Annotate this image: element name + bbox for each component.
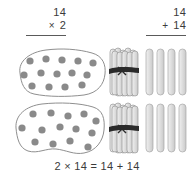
counter-group-2-shape: [8, 101, 108, 159]
counter-dot: [80, 110, 87, 117]
addition-rule-line: [146, 33, 186, 36]
counter-group-1: [8, 47, 108, 99]
multiplication-multiplicand: 14: [53, 6, 66, 19]
stick-group-1-shape: [108, 47, 194, 99]
loose-sticks: [146, 49, 186, 95]
stick-group-2-shape: [108, 101, 194, 157]
loose-stick: [157, 104, 164, 152]
loose-sticks: [146, 104, 186, 152]
bundle-stick: [132, 51, 138, 96]
loose-stick: [179, 49, 186, 95]
addition-problem: 14 + 14: [146, 6, 186, 36]
stick-group-2: [108, 101, 194, 157]
counter-dot: [18, 124, 25, 131]
bundle-of-ten: [109, 103, 139, 153]
counter-dot: [42, 55, 49, 62]
loose-stick: [168, 104, 175, 152]
counter-dot: [64, 112, 71, 119]
multiplication-multiplier: 2: [60, 19, 66, 32]
counter-group-2: [8, 101, 108, 159]
loose-stick: [146, 49, 153, 95]
counter-dot: [37, 69, 44, 76]
counter-dot: [49, 140, 56, 147]
multiplication-rule-line: [26, 33, 66, 36]
counter-dot: [83, 71, 90, 78]
loose-stick: [146, 104, 153, 152]
counter-dot: [84, 143, 91, 150]
counter-dot: [72, 125, 79, 132]
counter-dot: [58, 56, 65, 63]
counter-dot: [68, 69, 75, 76]
counter-dot: [66, 137, 73, 144]
counter-dot: [26, 57, 33, 64]
addition-top-number: 14: [146, 6, 186, 19]
multiplication-problem: 14 × 2: [26, 6, 66, 36]
counter-dot: [88, 129, 95, 136]
counter-dot: [31, 138, 38, 145]
addition-bottom-row: + 14: [146, 19, 186, 32]
worksheet-illustration: 14 × 2 14 + 14: [0, 0, 194, 181]
bundle-of-ten: [109, 48, 139, 96]
counter-dot: [28, 82, 35, 89]
stick-group-1: [108, 47, 194, 99]
counter-dot: [38, 126, 45, 133]
counter-dot: [78, 81, 85, 88]
multiplication-bottom-row: × 2: [26, 19, 66, 32]
counter-dot: [56, 123, 63, 130]
counter-dot: [45, 83, 52, 90]
counter-dot: [47, 109, 54, 116]
addition-second-addend: 14: [173, 19, 186, 32]
number-sentence: 2 × 14 = 14 + 14: [0, 160, 194, 172]
counter-dot: [74, 57, 81, 64]
counter-dot: [61, 83, 68, 90]
counter-dot: [20, 71, 27, 78]
counter-dot: [53, 70, 60, 77]
loose-stick: [157, 49, 164, 95]
counter-group-1-shape: [8, 47, 108, 99]
counter-dot: [29, 110, 36, 117]
multiplication-operator-symbol: ×: [49, 19, 55, 32]
loose-stick: [168, 49, 175, 95]
counter-dot: [92, 117, 99, 124]
loose-stick: [179, 104, 186, 152]
addition-operator-symbol: +: [162, 19, 168, 32]
multiplication-top-number: 14: [26, 6, 66, 19]
addition-first-addend: 14: [173, 6, 186, 19]
counter-dot: [89, 59, 96, 66]
